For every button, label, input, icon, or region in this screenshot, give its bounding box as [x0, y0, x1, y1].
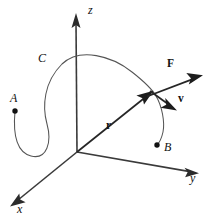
- force-vector-f: [147, 73, 203, 97]
- figure-canvas: [0, 0, 208, 223]
- velocity-vector-v: [150, 91, 177, 111]
- points-group: [12, 108, 159, 147]
- axes-group: [10, 13, 199, 207]
- y-axis-line: [77, 152, 190, 172]
- point-a-dot: [12, 108, 17, 113]
- force-vector-f-arrowhead: [186, 73, 203, 85]
- point-a-label: A: [10, 92, 17, 104]
- y-axis: [77, 152, 199, 177]
- vectors-group: [77, 73, 203, 152]
- y-axis-label: y: [190, 172, 195, 184]
- z-axis-line: [76, 22, 77, 152]
- x-axis: [10, 152, 77, 207]
- vector-calculus-figure: z y x A B C r F v: [0, 0, 208, 223]
- velocity-vector-v-label: v: [178, 93, 184, 105]
- point-b-label: B: [164, 141, 171, 153]
- force-vector-f-label: F: [167, 58, 174, 70]
- x-axis-line: [18, 152, 77, 200]
- position-vector-r: [77, 91, 154, 152]
- z-axis-label: z: [88, 4, 93, 16]
- curve-c-label: C: [38, 52, 46, 64]
- position-vector-r-label: r: [106, 120, 111, 132]
- z-axis: [72, 13, 81, 152]
- point-b-dot: [154, 142, 159, 147]
- x-axis-label: x: [17, 203, 22, 215]
